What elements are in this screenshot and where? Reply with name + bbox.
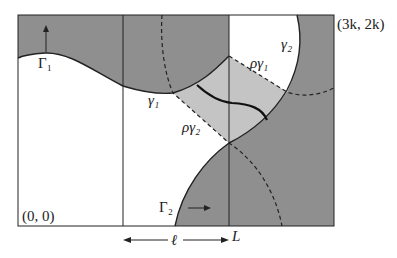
label-Gamma2: Γ₂ [159, 200, 173, 215]
label-rho-gamma1: ργ₁ [250, 56, 268, 71]
label-L: L [232, 229, 240, 244]
label-Gamma1: Γ₁ [38, 56, 52, 71]
arrow-right-icon [221, 237, 229, 243]
label-gamma2: γ₂ [281, 37, 292, 52]
label-origin: (0, 0) [22, 209, 55, 224]
label-ell: ℓ [171, 233, 177, 248]
label-gamma1: γ₁ [148, 93, 159, 108]
arrow-left-icon [123, 237, 131, 243]
label-rho-gamma2: ργ₂ [182, 120, 200, 135]
label-corner: (3k, 2k) [337, 17, 385, 32]
